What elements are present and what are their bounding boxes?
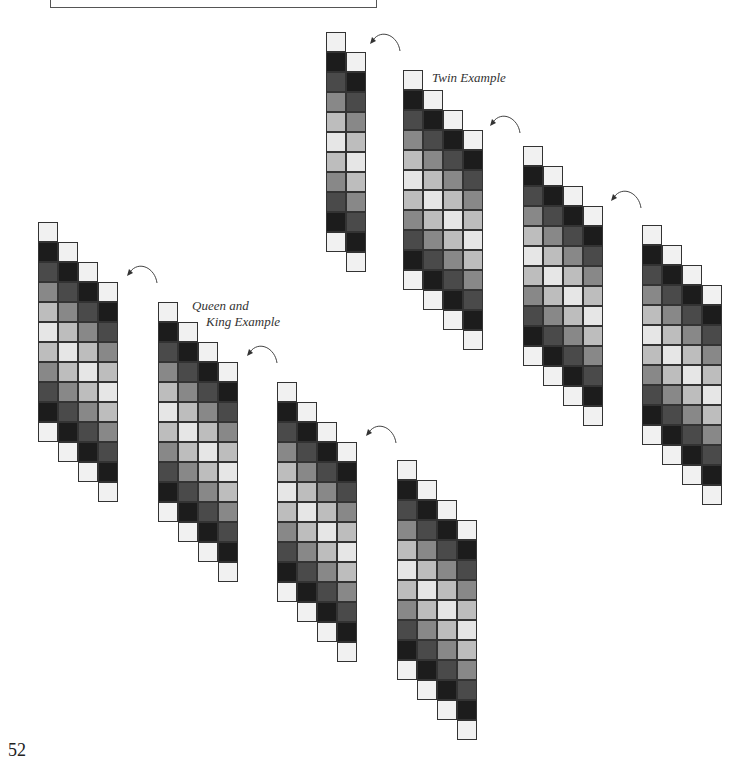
- fabric-square: [218, 522, 238, 542]
- fabric-square: [58, 362, 78, 382]
- fabric-square: [98, 462, 118, 482]
- fabric-square: [178, 502, 198, 522]
- fabric-square: [98, 482, 118, 502]
- fabric-square: [642, 305, 662, 325]
- fabric-square: [297, 422, 317, 442]
- fabric-square: [642, 385, 662, 405]
- fabric-square: [58, 342, 78, 362]
- fabric-square: [397, 640, 417, 660]
- fabric-square: [423, 210, 443, 230]
- fabric-square: [523, 166, 543, 186]
- fabric-square: [78, 282, 98, 302]
- fabric-square: [463, 210, 483, 230]
- fabric-square: [277, 502, 297, 522]
- fabric-square: [397, 620, 417, 640]
- fabric-square: [78, 342, 98, 362]
- fabric-square: [583, 246, 603, 266]
- fabric-square: [463, 230, 483, 250]
- fabric-square: [463, 150, 483, 170]
- fabric-square: [98, 322, 118, 342]
- fabric-square: [457, 580, 477, 600]
- fabric-square: [337, 562, 357, 582]
- fabric-square: [58, 402, 78, 422]
- fabric-square: [682, 445, 702, 465]
- fabric-square: [326, 152, 346, 172]
- fabric-square: [297, 482, 317, 502]
- fabric-square: [457, 600, 477, 620]
- fabric-square: [563, 186, 583, 206]
- curved-arrow-icon: [245, 342, 279, 364]
- fabric-square: [58, 422, 78, 442]
- fabric-square: [543, 186, 563, 206]
- fabric-square: [662, 445, 682, 465]
- fabric-square: [326, 72, 346, 92]
- fabric-square: [218, 382, 238, 402]
- fabric-square: [78, 402, 98, 422]
- fabric-square: [563, 266, 583, 286]
- fabric-square: [38, 402, 58, 422]
- fabric-square: [702, 485, 722, 505]
- fabric-square: [158, 322, 178, 342]
- fabric-square: [662, 425, 682, 445]
- fabric-square: [423, 150, 443, 170]
- fabric-square: [218, 542, 238, 562]
- fabric-square: [38, 262, 58, 282]
- fabric-square: [662, 265, 682, 285]
- fabric-square: [346, 152, 366, 172]
- fabric-square: [317, 442, 337, 462]
- fabric-square: [437, 520, 457, 540]
- fabric-square: [158, 442, 178, 462]
- fabric-square: [403, 130, 423, 150]
- fabric-square: [457, 540, 477, 560]
- fabric-square: [78, 422, 98, 442]
- fabric-square: [218, 362, 238, 382]
- fabric-square: [277, 462, 297, 482]
- fabric-square: [38, 382, 58, 402]
- fabric-square: [397, 560, 417, 580]
- queen-king-label-line1: Queen and: [192, 298, 249, 314]
- fabric-square: [178, 422, 198, 442]
- fabric-square: [158, 362, 178, 382]
- fabric-square: [277, 402, 297, 422]
- fabric-square: [317, 562, 337, 582]
- fabric-square: [38, 322, 58, 342]
- fabric-square: [78, 362, 98, 382]
- fabric-square: [417, 600, 437, 620]
- queen-king-label-line2: King Example: [206, 314, 280, 330]
- fabric-square: [583, 226, 603, 246]
- curved-arrow-icon: [488, 112, 522, 134]
- fabric-square: [583, 206, 603, 226]
- fabric-square: [337, 482, 357, 502]
- fabric-square: [98, 342, 118, 362]
- fabric-square: [662, 405, 682, 425]
- fabric-square: [437, 680, 457, 700]
- fabric-square: [702, 285, 722, 305]
- fabric-square: [297, 502, 317, 522]
- fabric-square: [443, 210, 463, 230]
- fabric-square: [198, 382, 218, 402]
- fabric-square: [682, 385, 702, 405]
- fabric-square: [346, 212, 366, 232]
- fabric-square: [337, 622, 357, 642]
- fabric-square: [158, 502, 178, 522]
- fabric-square: [98, 442, 118, 462]
- fabric-square: [218, 442, 238, 462]
- fabric-square: [78, 442, 98, 462]
- page-number: 52: [8, 740, 26, 761]
- fabric-square: [463, 270, 483, 290]
- fabric-square: [463, 170, 483, 190]
- fabric-square: [58, 382, 78, 402]
- fabric-square: [702, 425, 722, 445]
- fabric-square: [58, 302, 78, 322]
- fabric-square: [437, 700, 457, 720]
- fabric-square: [682, 265, 702, 285]
- fabric-square: [397, 540, 417, 560]
- fabric-square: [417, 500, 437, 520]
- fabric-square: [437, 620, 457, 640]
- fabric-square: [662, 285, 682, 305]
- fabric-square: [702, 405, 722, 425]
- fabric-square: [38, 422, 58, 442]
- fabric-square: [397, 480, 417, 500]
- fabric-square: [463, 310, 483, 330]
- fabric-square: [326, 232, 346, 252]
